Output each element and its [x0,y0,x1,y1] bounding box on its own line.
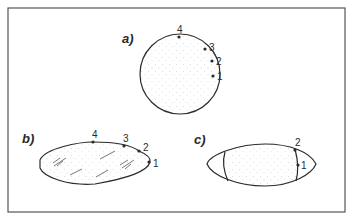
panel-b-label-4: 4 [92,129,98,140]
panel-b-point-1 [147,160,150,163]
panel-b-point-2 [137,149,140,152]
panel-c-label: c) [194,132,206,147]
panel-a: a) 1 2 3 4 [122,24,223,114]
panel-a-label: a) [122,31,134,46]
panel-b-label-1: 1 [153,158,159,169]
panel-b-point-4 [91,140,94,143]
panel-b-label: b) [22,131,34,146]
panel-a-point-2 [210,59,213,62]
panel-b-label-3: 3 [123,133,129,144]
panel-a-label-1: 1 [217,71,223,82]
panel-c: c) 1 2 [194,132,316,186]
panel-a-point-3 [203,47,206,50]
panel-a-point-1 [211,74,214,77]
panel-b-label-2: 2 [143,142,149,153]
panel-b-ellipse [40,142,150,184]
panel-a-point-4 [177,35,180,38]
figure-canvas: a) 1 2 3 4 b) 1 2 3 4 [0,0,354,219]
panel-a-label-4: 4 [177,24,183,35]
panel-c-stippled-band [225,144,297,186]
panel-a-label-2: 2 [216,56,222,67]
panel-a-circle [140,34,220,114]
panel-c-point-2 [293,148,296,151]
panel-c-point-1 [296,163,299,166]
panel-b-point-3 [122,144,125,147]
panel-c-label-2: 2 [295,137,301,148]
panel-b: b) 1 2 3 4 [22,129,159,184]
panel-c-label-1: 1 [301,160,307,171]
panel-a-label-3: 3 [209,42,215,53]
